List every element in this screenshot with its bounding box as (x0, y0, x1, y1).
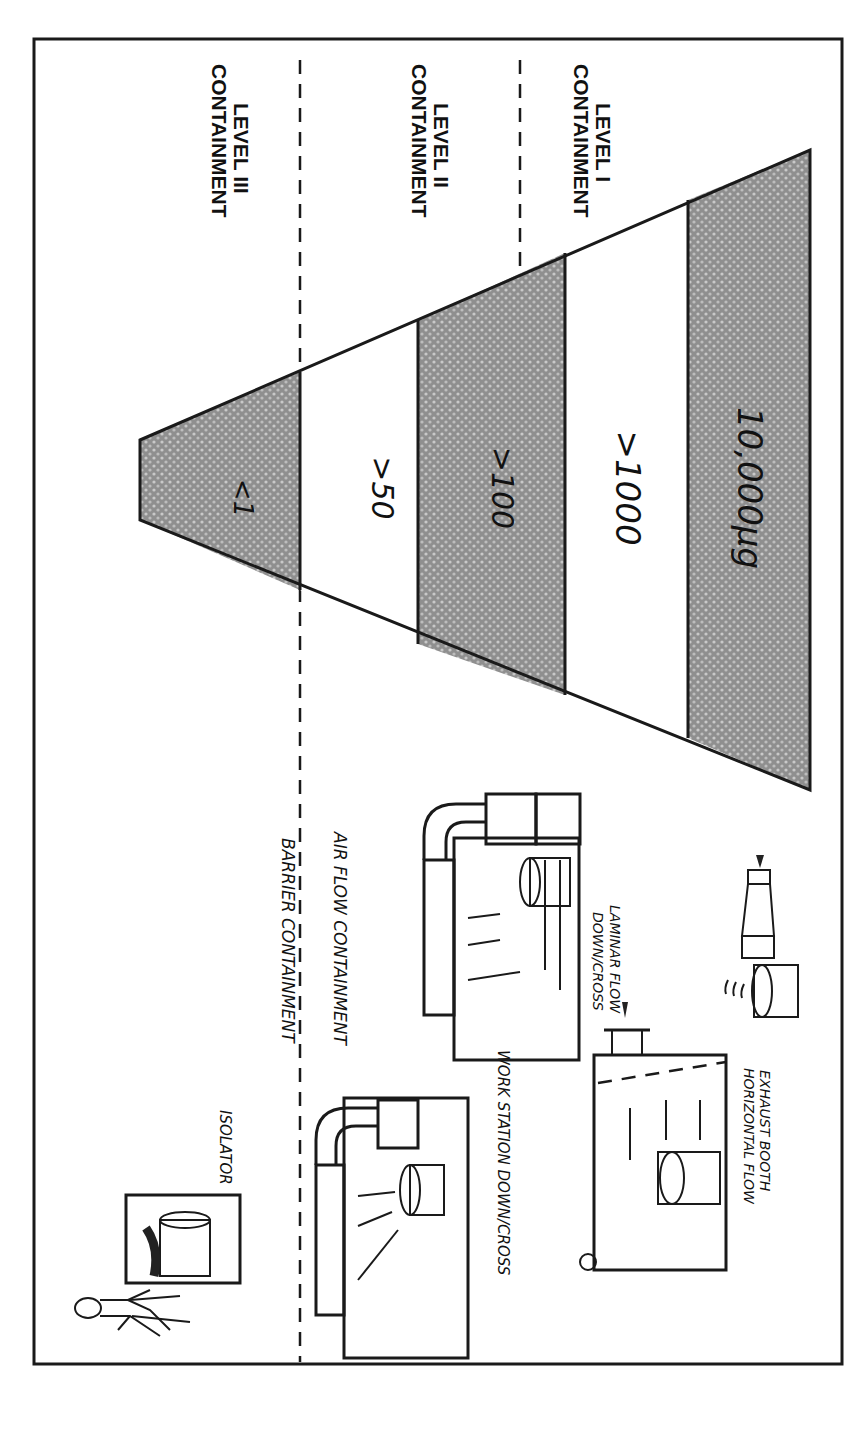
svg-text:CONTAINMENT: CONTAINMENT (208, 64, 231, 218)
isolator-label: ISOLATOR (216, 1110, 234, 1185)
laminar-flow-label-2: LAMINAR FLOW (607, 905, 623, 1014)
exhaust-booth-label-1: HORIZONTAL FLOW (741, 1068, 757, 1205)
laminar-flow-icon (424, 794, 580, 1060)
band-label-gt50: >50 (365, 456, 400, 519)
laminar-flow-label-1: DOWN/CROSS (590, 912, 606, 1011)
level-2-label: CONTAINMENT LEVEL II (408, 64, 453, 218)
diagram-canvas: <1 >50 >100 >1000 10,000µg CONTAINMENT L… (0, 0, 859, 1434)
svg-text:CONTAINMENT: CONTAINMENT (570, 64, 593, 218)
isolator-icon (75, 1195, 240, 1336)
svg-text:CONTAINMENT: CONTAINMENT (408, 64, 431, 218)
level-3-label: CONTAINMENT LEVEL III (208, 64, 253, 218)
exhaust-booth-label-2: EXHAUST BOOTH (757, 1070, 773, 1192)
svg-text:LEVEL I: LEVEL I (592, 103, 615, 182)
workstation-label: WORK STATION DOWN/CROSS (494, 1050, 512, 1276)
band-label-gt100: >100 (485, 447, 520, 529)
exhaust-booth-icon (580, 1002, 726, 1270)
svg-text:LEVEL II: LEVEL II (430, 103, 453, 188)
barrier-containment-label: BARRIER CONTAINMENT (278, 838, 298, 1044)
level-1-label: CONTAINMENT LEVEL I (570, 64, 615, 218)
band-label-10000: 10,000µg (730, 407, 770, 569)
workstation-icon (316, 1098, 468, 1358)
drum-hood-icon (725, 855, 798, 1017)
pyramid (140, 150, 810, 790)
containment-diagram: <1 >50 >100 >1000 10,000µg CONTAINMENT L… (0, 0, 859, 1434)
band-label-lt1: <1 (228, 479, 258, 517)
svg-text:LEVEL III: LEVEL III (230, 103, 253, 194)
band-label-gt1000: >1000 (608, 430, 648, 545)
airflow-containment-label: AIR FLOW CONTAINMENT (330, 831, 350, 1046)
